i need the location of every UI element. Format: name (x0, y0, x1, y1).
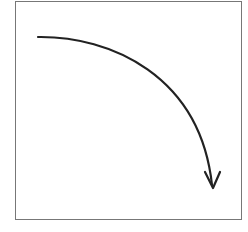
arc-path (38, 37, 212, 185)
curved-arrow-icon (0, 0, 248, 232)
